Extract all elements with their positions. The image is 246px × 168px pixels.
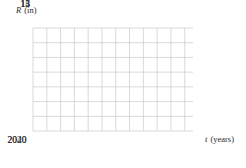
figure-canvas: 15 14 13 2020 2040 R(in) t(years) <box>0 0 246 168</box>
x-axis-title-variable: t <box>205 134 207 144</box>
y-axis-title: R(in) <box>16 6 36 15</box>
grid-lines <box>33 28 193 131</box>
x-axis-title: t(years) <box>205 135 234 144</box>
x-tick-label-2040: 2040 <box>0 136 34 146</box>
x-axis-title-unit: (years) <box>210 134 234 144</box>
y-axis-title-unit: (in) <box>24 5 36 15</box>
y-axis-title-variable: R <box>16 5 21 15</box>
